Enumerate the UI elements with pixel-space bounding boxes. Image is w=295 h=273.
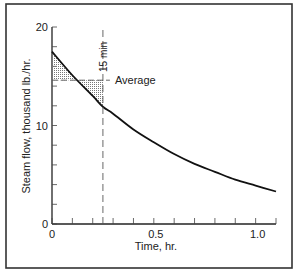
y-tick-label: 0 <box>42 218 48 230</box>
x-tick-label: 0.5 <box>148 228 163 240</box>
y-axis-label: Steam flow, thousand lb./hr. <box>20 58 32 193</box>
chart-frame: 0102000.51.0 15 minAverage Steam flow, t… <box>0 0 295 273</box>
steam-flow-curve <box>52 52 276 192</box>
average-label: Average <box>115 74 156 86</box>
y-tick-label: 10 <box>36 120 48 132</box>
axes: 0102000.51.0 <box>36 21 276 240</box>
steam-flow-chart: 0102000.51.0 15 minAverage Steam flow, t… <box>0 0 295 273</box>
x-tick-label: 0 <box>49 228 55 240</box>
data-curve <box>52 52 276 192</box>
x-tick-label: 1.0 <box>250 228 265 240</box>
x-axis-label: Time, hr. <box>135 240 177 252</box>
y-tick-label: 20 <box>36 21 48 33</box>
annotations: 15 minAverage <box>52 29 156 224</box>
15-min-label: 15 min <box>98 42 109 72</box>
